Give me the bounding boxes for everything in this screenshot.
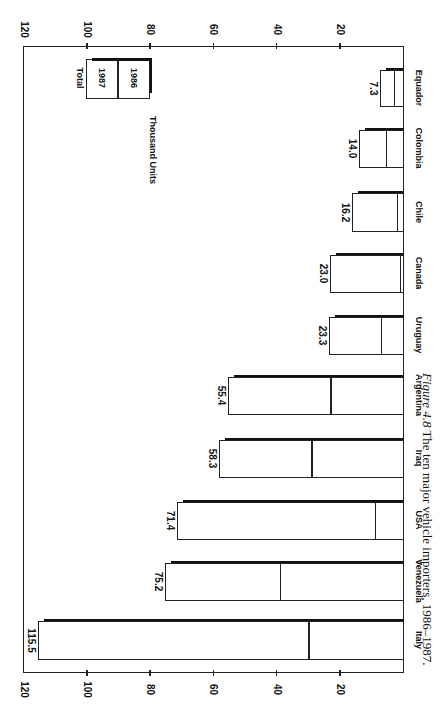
value-label: 115.5 (26, 620, 37, 660)
bar-1986-divider (308, 621, 310, 660)
category-label: Equador (414, 53, 424, 123)
value-label: 75.2 (153, 562, 164, 602)
legend-total-label: Total (75, 60, 85, 96)
bar-total (38, 621, 404, 660)
tick-label: 20 (334, 15, 345, 45)
bar-total (228, 377, 404, 415)
bar-1986-divider (280, 563, 282, 601)
bar-1986-divider (400, 255, 402, 293)
tick-label: 60 (208, 675, 219, 705)
bar-total (165, 563, 404, 601)
tick-label: 40 (271, 675, 282, 705)
value-label: 55.4 (215, 376, 226, 416)
bar-1986-divider (386, 130, 388, 168)
tick-label: 80 (145, 15, 156, 45)
bar-1986-divider (330, 377, 332, 415)
tick-label: 60 (208, 15, 219, 45)
category-label: Colombia (414, 113, 424, 183)
category-label: Chile (414, 177, 424, 247)
units-label: Thousand Units (148, 110, 158, 190)
legend-shadow-side (150, 59, 152, 93)
bar-1986-divider (394, 70, 396, 107)
legend-divider (117, 59, 119, 99)
bar-1986-divider (397, 193, 399, 232)
legend-1986-label: 1986 (129, 60, 139, 96)
bar-total (329, 317, 404, 355)
bar-total (359, 130, 404, 168)
caption-text: The ten major vehicle importers, 1986–19… (420, 430, 435, 665)
bar-1986-divider (381, 317, 383, 355)
value-label: 58.3 (206, 439, 217, 479)
value-label: 71.4 (165, 501, 176, 541)
bar-total (380, 70, 404, 107)
tick-label: 20 (334, 675, 345, 705)
bar-1986-divider (311, 440, 313, 478)
tick-label: 120 (18, 675, 29, 705)
bar-1986-divider (375, 502, 377, 540)
tick-label: 120 (18, 15, 29, 45)
category-label: Uruguay (414, 300, 424, 370)
bar-total (177, 502, 404, 540)
tick-label: 100 (82, 15, 93, 45)
tick-label: 80 (145, 675, 156, 705)
tick-label: 100 (82, 675, 93, 705)
value-label: 14.0 (346, 129, 357, 169)
figure-caption: Figure 4.8 The ten major vehicle importe… (419, 373, 435, 703)
value-label: 23.3 (317, 316, 328, 356)
legend-1987-label: 1987 (97, 60, 107, 96)
caption-figure-number: Figure 4.8 (420, 373, 435, 427)
category-label: Canada (414, 238, 424, 308)
tick-label: 40 (271, 15, 282, 45)
value-label: 16.2 (339, 192, 350, 232)
value-label: 7.3 (367, 68, 378, 108)
value-label: 23.0 (318, 254, 329, 294)
bar-total (330, 255, 404, 293)
